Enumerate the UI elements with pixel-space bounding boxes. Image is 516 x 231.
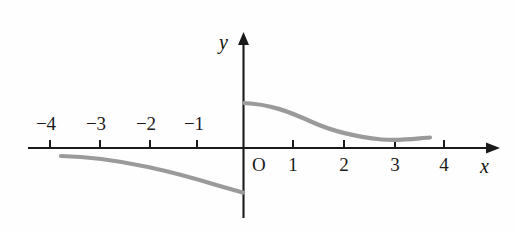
y-axis-label: y bbox=[219, 32, 228, 52]
figure-root: −4 −3 −2 −1 O 1 2 3 4 x y bbox=[0, 0, 516, 231]
x-tick-marks-negative bbox=[50, 140, 197, 148]
plot-canvas bbox=[0, 0, 516, 231]
x-tick-label--1: −1 bbox=[178, 114, 210, 133]
x-tick-label-4: 4 bbox=[435, 155, 453, 174]
y-axis-arrow-icon bbox=[238, 32, 249, 45]
x-tick-label-2: 2 bbox=[335, 155, 353, 174]
x-axis-label: x bbox=[480, 156, 489, 176]
curve-branch-left bbox=[61, 156, 243, 193]
x-tick-marks-positive bbox=[293, 140, 444, 148]
x-tick-label--2: −2 bbox=[130, 114, 162, 133]
curve-branch-right bbox=[244, 103, 430, 140]
x-axis-arrow-icon bbox=[486, 143, 500, 154]
x-tick-label-3: 3 bbox=[386, 155, 404, 174]
x-tick-label-1: 1 bbox=[284, 155, 302, 174]
x-tick-label--3: −3 bbox=[80, 114, 112, 133]
x-tick-label--4: −4 bbox=[30, 114, 62, 133]
origin-label: O bbox=[252, 155, 266, 174]
